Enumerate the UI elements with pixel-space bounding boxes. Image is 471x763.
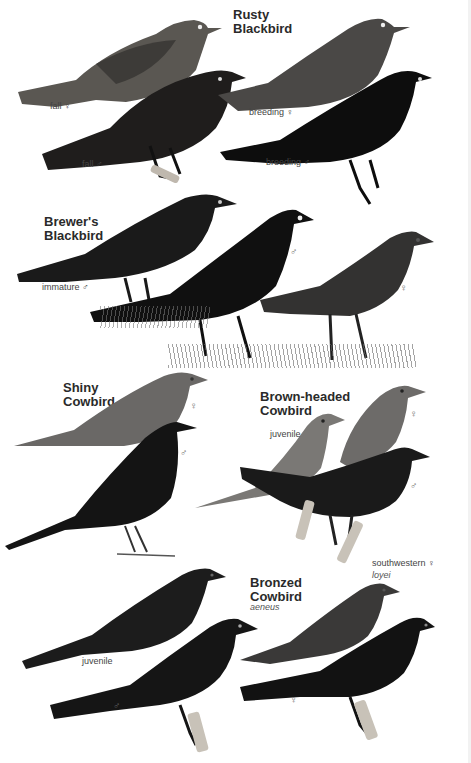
label-immature-male: immature ♂ bbox=[42, 282, 89, 292]
sublabel-loyei: loyei bbox=[372, 570, 391, 580]
grass bbox=[168, 344, 416, 368]
label-bronzed-female: ♀ bbox=[290, 694, 298, 705]
label-brown-headed-male: ♂ bbox=[410, 480, 418, 491]
label-fall-male: fall ♂ bbox=[82, 159, 103, 169]
label-brewers-female: ♀ bbox=[400, 282, 408, 293]
bird-shiny-male bbox=[5, 418, 200, 563]
bird-brown-headed-male bbox=[240, 445, 430, 555]
bird-bronzed-male bbox=[50, 615, 260, 755]
label-southwestern-female: southwestern ♀ bbox=[372, 558, 435, 568]
bird-rusty-breeding-male bbox=[220, 68, 440, 208]
label-shiny-male: ♂ bbox=[180, 447, 188, 458]
label-brown-headed-juvenile: juvenile bbox=[270, 429, 301, 439]
label-breeding-male: breeding ♂ bbox=[266, 157, 310, 167]
label-brown-headed-female: ♀ bbox=[410, 408, 418, 419]
grass bbox=[100, 306, 210, 328]
label-bronzed-male: ♂ bbox=[113, 700, 121, 711]
bird-bronzed-female bbox=[240, 615, 435, 745]
field-guide-plate: Rusty Blackbird fall ♀ fall ♂ breeding ♀ bbox=[0, 0, 471, 763]
